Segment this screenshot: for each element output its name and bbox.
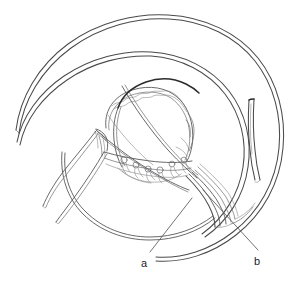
crossing-strands: [96, 85, 198, 192]
right-blade: [248, 99, 260, 182]
figure-drawing: [0, 0, 297, 284]
nodule: [169, 161, 179, 177]
figure-label-b: b: [254, 256, 260, 267]
second-spiral-whorl: [17, 52, 249, 237]
leader-line-b: [203, 190, 258, 250]
leader-line-a: [150, 198, 192, 252]
filament-bundle: [186, 164, 238, 227]
figure-label-a: a: [141, 258, 147, 269]
left-filaments: [43, 131, 107, 224]
upper-loop-strand: [114, 107, 125, 167]
figure-container: a b: [0, 0, 297, 284]
third-whorl-arc: [62, 152, 215, 240]
